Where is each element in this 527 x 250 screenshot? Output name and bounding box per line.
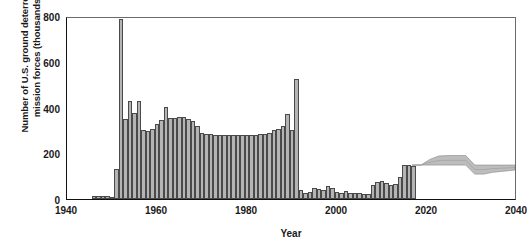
x-tick-mark xyxy=(247,199,248,200)
y-axis-tick-labels: 0200400600800 xyxy=(34,17,60,200)
x-tick-mark xyxy=(337,199,338,200)
plot-inner xyxy=(67,18,515,199)
x-tick-label: 2020 xyxy=(415,205,437,216)
y-tick-mark xyxy=(66,64,67,65)
x-tick-mark xyxy=(157,199,158,200)
y-axis-title-line1: Number of U.S. ground deterrence xyxy=(19,0,31,157)
x-tick-label: 1960 xyxy=(145,205,167,216)
x-tick-label: 1940 xyxy=(55,205,77,216)
x-tick-label: 1980 xyxy=(235,205,257,216)
plot-area xyxy=(66,17,516,200)
x-tick-mark xyxy=(427,199,428,200)
y-tick-label: 600 xyxy=(43,57,60,68)
x-axis-tick-labels: 194019601980200020202040 xyxy=(66,205,516,221)
x-axis-title: Year xyxy=(66,228,516,239)
y-tick-mark xyxy=(66,155,67,156)
bar xyxy=(294,79,299,199)
projection-band-area xyxy=(412,156,515,175)
y-tick-label: 0 xyxy=(54,195,60,206)
y-tick-label: 400 xyxy=(43,103,60,114)
y-tick-mark xyxy=(66,110,67,111)
bar xyxy=(411,166,416,199)
x-tick-label: 2040 xyxy=(505,205,527,216)
y-tick-label: 800 xyxy=(43,12,60,23)
x-tick-label: 2000 xyxy=(325,205,347,216)
y-tick-label: 200 xyxy=(43,149,60,160)
y-tick-mark xyxy=(66,18,67,19)
